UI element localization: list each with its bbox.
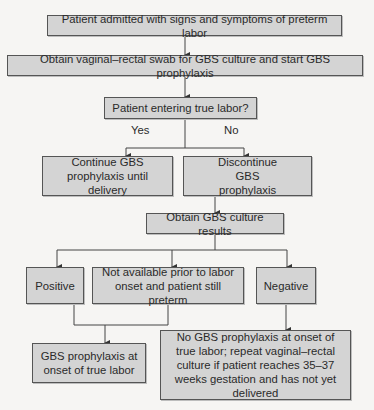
node-prophylaxis-at-onset: GBS prophylaxis at onset of true labor	[32, 343, 146, 383]
node-obtain-swab: Obtain vaginal–rectal swab for GBS cultu…	[7, 55, 363, 76]
edge-label-no: No	[224, 124, 238, 136]
edge-label-yes: Yes	[131, 124, 149, 136]
node-continue-prophylaxis: Continue GBS prophylaxis until delivery	[42, 156, 173, 196]
node-positive: Positive	[26, 267, 84, 304]
node-obtain-results: Obtain GBS culture results	[146, 213, 284, 234]
node-patient-admitted: Patient admitted with signs and symptoms…	[47, 15, 342, 36]
node-not-available: Not available prior to labor onset and p…	[92, 267, 244, 304]
node-negative: Negative	[256, 267, 316, 304]
node-true-labor-question: Patient entering true labor?	[104, 97, 257, 119]
node-discontinue-prophylaxis: Discontinue GBS prophylaxis	[183, 156, 312, 196]
node-no-prophylaxis: No GBS prophylaxis at onset of true labo…	[160, 330, 351, 400]
